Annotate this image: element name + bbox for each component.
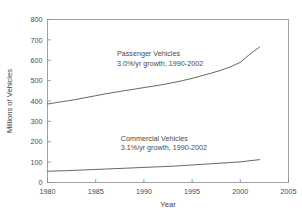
x-tick-label: 2000 [232, 187, 248, 196]
x-tick-label: 1990 [136, 187, 152, 196]
series-line [48, 160, 260, 172]
series-annotations: Passenger Vehicles3.0%/yr growth, 1990-2… [117, 49, 207, 152]
x-tick-label: 2005 [281, 187, 297, 196]
y-axis-title: Millions of Vehicles [5, 69, 14, 133]
x-axis-title: Year [160, 200, 176, 209]
chart-figure: 198019851990199520002005 010020030040050… [0, 0, 302, 221]
series-annotation: 3.0%/yr growth, 1990-2002 [117, 59, 203, 68]
y-tick-label: 600 [31, 56, 43, 65]
y-axis-ticks [48, 20, 52, 183]
series-annotation: 3.1%/yr growth, 1990-2002 [121, 143, 207, 152]
y-tick-label: 0 [39, 178, 43, 187]
x-axis-ticks [48, 179, 289, 183]
x-axis-tick-labels: 198019851990199520002005 [40, 187, 297, 196]
x-tick-label: 1985 [88, 187, 104, 196]
x-tick-label: 1980 [40, 187, 56, 196]
y-tick-label: 400 [31, 97, 43, 106]
y-tick-label: 700 [31, 36, 43, 45]
series-annotation: Commercial Vehicles [121, 134, 189, 143]
x-tick-label: 1995 [184, 187, 200, 196]
y-tick-label: 500 [31, 76, 43, 85]
vehicle-growth-line-chart: 198019851990199520002005 010020030040050… [0, 0, 302, 221]
series-annotation: Passenger Vehicles [117, 49, 181, 58]
plot-frame [48, 20, 289, 183]
y-axis-tick-labels: 0100200300400500600700800 [31, 15, 43, 187]
y-tick-label: 300 [31, 117, 43, 126]
y-tick-label: 100 [31, 158, 43, 167]
y-tick-label: 200 [31, 137, 43, 146]
y-tick-label: 800 [31, 15, 43, 24]
